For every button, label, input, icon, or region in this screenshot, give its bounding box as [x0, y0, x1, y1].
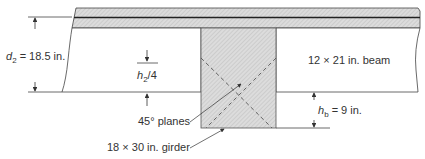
d2-label: d2 = 18.5 in. [6, 50, 65, 65]
beam-girder-diagram: d2 = 18.5 in. h2/4 12 × 21 in. beam 45° … [0, 0, 425, 159]
girder [201, 28, 276, 128]
hb-label: hb = 9 in. [318, 104, 362, 119]
beam-left [62, 28, 201, 92]
hb-dimension: hb = 9 in. [276, 93, 362, 128]
planes-label: 45° planes [138, 115, 191, 127]
girder-label: 18 × 30 in. girder [107, 141, 190, 153]
beam-label: 12 × 21 in. beam [308, 54, 390, 66]
girder-leader [190, 129, 224, 148]
d2-dimension: d2 = 18.5 in. [6, 17, 72, 92]
slab [72, 8, 420, 28]
